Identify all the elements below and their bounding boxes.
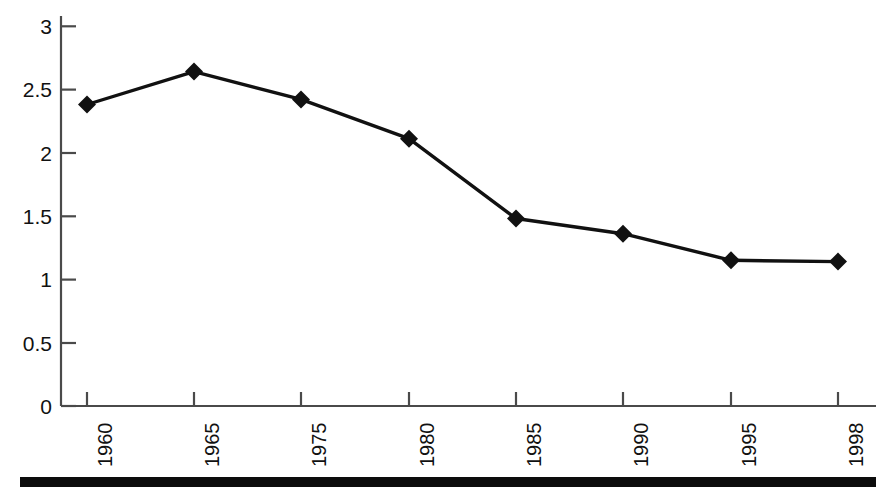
bottom-rule (20, 477, 876, 487)
x-tick-label-1998: 1998 (846, 423, 866, 468)
y-tick-label-0: 0 (0, 396, 52, 417)
data-point-1995 (722, 251, 740, 269)
x-tick-label-1985: 1985 (524, 423, 544, 468)
x-tick-label-1990: 1990 (631, 423, 651, 468)
y-tick-label-2_5: 2.5 (0, 79, 52, 100)
x-tick-label-1980: 1980 (417, 423, 437, 468)
x-tick-label-1995: 1995 (739, 423, 759, 468)
data-point-1975 (292, 90, 310, 108)
data-point-1965 (185, 63, 203, 81)
y-tick-label-1: 1 (0, 269, 52, 290)
x-tick-label-1975: 1975 (309, 423, 329, 468)
data-point-1990 (614, 225, 632, 243)
y-axis-ticks (61, 26, 76, 406)
y-tick-label-2: 2 (0, 143, 52, 164)
data-markers-series-1 (78, 63, 847, 271)
data-point-1960 (78, 96, 96, 114)
y-tick-label-1_5: 1.5 (0, 206, 52, 227)
y-tick-label-0_5: 0.5 (0, 333, 52, 354)
x-tick-label-1965: 1965 (202, 423, 222, 468)
data-line-series-1 (87, 72, 838, 262)
line-chart: 3 2.5 2 1.5 1 0.5 0 1960 1965 1975 1980 … (0, 0, 878, 500)
x-axis-ticks (87, 392, 838, 406)
data-point-1998 (829, 253, 847, 271)
y-tick-label-3: 3 (0, 16, 52, 37)
x-tick-label-1960: 1960 (95, 423, 115, 468)
